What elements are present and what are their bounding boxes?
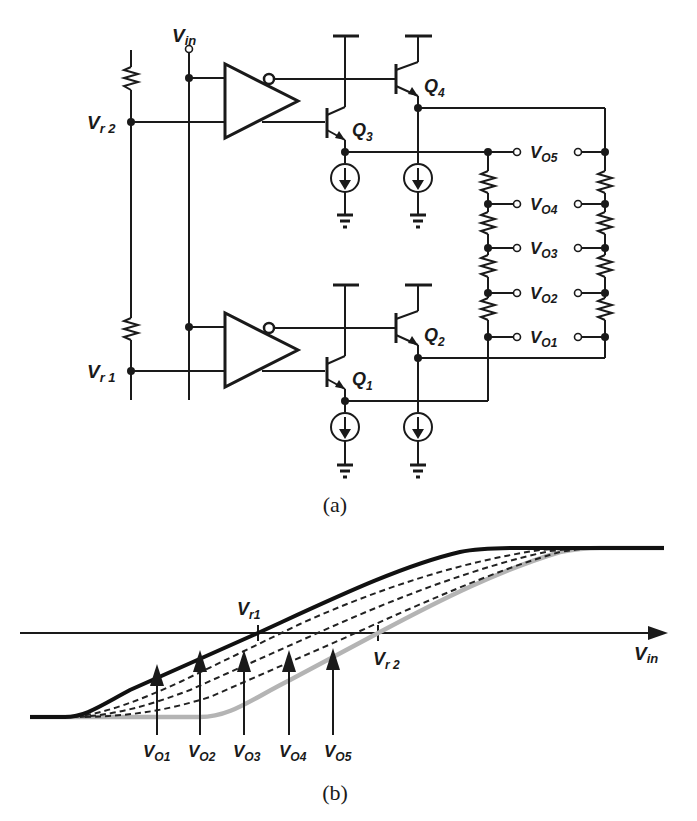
resistor-icon [124,67,138,90]
vin-input [185,46,193,401]
vo4-label: VO4 [530,195,558,217]
tick-label-vr2: Vr 2 [373,649,400,672]
vo3-label: VO3 [530,239,558,261]
output-terminal-icon [575,334,582,341]
emitter-arrow-icon [408,87,418,96]
arrow-vo1: VO1 [143,664,171,764]
resistor-icon [481,298,495,320]
q2-label: Q2 [424,325,445,349]
arrow-up-icon [237,650,251,672]
vr2-label: Vr 2 [87,112,116,136]
resistor-icon [481,255,495,277]
svg-text:VO2: VO2 [188,742,216,764]
current-source-q1 [331,401,359,477]
vo5-label: VO5 [530,143,558,165]
ground-icon [337,215,353,227]
output-terminal-icon [575,290,582,297]
output-terminal-icon [514,245,521,252]
resistor-icon [598,171,612,193]
x-axis-label: Vin [634,643,658,666]
transistor-q4: Q4 [396,36,445,112]
output-terminal-icon [575,245,582,252]
emitter-arrow-icon [408,336,418,345]
figure-canvas: Q3 Q4 [0,0,697,821]
ground-icon [337,465,353,477]
svg-text:VO4: VO4 [279,742,307,764]
resistor-icon [598,298,612,320]
vo2-label: VO2 [530,284,558,306]
inverting-output-bubble-icon [264,323,274,333]
resistor-icon [598,212,612,234]
transistor-q2: Q2 [396,285,445,362]
caption-a: (a) [323,492,347,517]
resistor-icon [124,318,138,340]
current-source-q4 [404,108,432,227]
vo1-label: VO1 [530,328,558,350]
current-source-q2 [404,358,432,477]
output-terminal-icon [575,149,582,156]
output-terminal-icon [575,201,582,208]
output-terminal-icon [514,290,521,297]
interpolation-ladder-right [598,148,612,341]
q1-label: Q1 [352,369,373,393]
circuit-schematic: Q3 Q4 [87,25,612,517]
arrow-up-icon [282,650,296,672]
transfer-characteristic-plot: Vin Vr1 Vr 2 VO1 VO2 VO3 [20,548,668,805]
q4-label: Q4 [424,76,445,100]
resistor-icon [598,255,612,277]
output-terminal-icon [514,149,521,156]
vr1-label: Vr 1 [87,361,116,385]
axis-arrow-icon [648,626,668,640]
output-taps: VO5 VO4 VO3 VO2 VO1 [488,143,605,350]
svg-text:VO3: VO3 [233,742,261,764]
current-source-q3 [331,152,359,227]
comparator-triangle-icon [225,313,298,387]
emitter-arrow-icon [335,131,345,140]
comparator-triangle-icon [225,64,298,138]
vin-label: Vin [172,25,196,48]
resistor-icon [481,171,495,193]
output-terminal-icon [514,334,521,341]
caption-b: (b) [322,780,348,805]
q3-label: Q3 [352,120,373,144]
resistor-icon [481,212,495,234]
ground-icon [410,465,426,477]
interpolation-ladder-left [481,148,495,401]
tick-label-vr1: Vr1 [237,599,261,622]
inverting-output-bubble-icon [264,74,274,84]
ground-icon [410,215,426,227]
emitter-arrow-icon [335,380,345,389]
transistor-q3: Q3 [327,36,373,156]
arrow-vo5: VO5 [324,648,352,764]
output-terminal-icon [514,201,521,208]
arrow-vo4: VO4 [279,650,307,764]
svg-text:VO5: VO5 [324,742,352,764]
transistor-q1: Q1 [327,285,373,405]
svg-text:VO1: VO1 [143,742,171,764]
reference-ladder [124,50,138,400]
